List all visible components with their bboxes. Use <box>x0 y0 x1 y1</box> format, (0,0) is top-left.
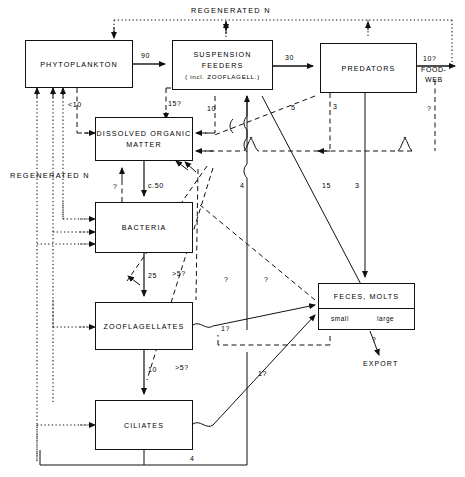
box-predators[interactable]: PREDATORS <box>320 43 417 93</box>
flow-label-1q-ciliates-feces: 1? <box>258 370 267 377</box>
flow-label-export-q: ? <box>372 336 377 343</box>
flow-label-3-predators-feces: 3 <box>355 182 360 189</box>
bacteria-label: BACTERIA <box>122 222 167 233</box>
flow-label-90: 90 <box>141 52 150 59</box>
foodweb-label-line1: FOOD- <box>421 66 447 73</box>
flow-label-5-diagonal: 5 <box>291 104 296 111</box>
food-web-nitrogen-flow-diagram: PHYTOPLANKTON SUSPENSION FEEDERS ( incl.… <box>0 0 465 477</box>
feces-molts-divider <box>319 308 414 309</box>
flow-label-30: 30 <box>285 54 294 61</box>
flow-label-25: 25 <box>148 272 157 279</box>
box-zooflagellates[interactable]: ZOOFLAGELLATES <box>95 302 193 350</box>
flow-label-bacteria-dom-q: ? <box>113 183 118 190</box>
box-phytoplankton[interactable]: PHYTOPLANKTON <box>25 40 133 88</box>
flow-suspension-feces-15 <box>262 96 365 292</box>
flow-label-q-mid-left: ? <box>224 276 229 283</box>
suspension-feeders-label-line3: ( incl. ZOOFLAGELL.) <box>185 71 260 82</box>
suspension-feeders-label-line2: FEEDERS <box>202 60 244 71</box>
flow-label-3-predators-dashed: 3 <box>333 103 338 110</box>
flow-zoofl-feces <box>193 305 315 327</box>
feces-molts-label: FECES, MOLTS <box>334 291 399 302</box>
flow-label-q-mid-right: ? <box>264 276 269 283</box>
regenerated-n-top-title: REGENERATED N <box>191 6 271 15</box>
flow-label-10-zoofl-ciliates: 10 <box>148 366 157 373</box>
flow-label-10-suspension-dom: 10 <box>207 105 216 112</box>
flow-ciliates-feces <box>193 315 315 426</box>
flow-label-1q-zoofl-feces: 1? <box>221 325 230 332</box>
flow-label-4-bottom: 4 <box>190 455 195 462</box>
box-dissolved-organic-matter[interactable]: DISSOLVED ORGANIC MATTER <box>95 117 193 161</box>
box-ciliates[interactable]: CILIATES <box>95 400 193 450</box>
export-label: EXPORT <box>363 360 398 367</box>
flow-label-4-vertical: 4 <box>240 182 245 189</box>
feces-molts-large-label: large <box>377 315 394 322</box>
regenerated-n-left-risers <box>37 90 88 462</box>
suspension-feeders-label-line1: SUSPENSION <box>193 49 251 60</box>
flow-label-gt5q-zoofl: >5? <box>172 270 186 277</box>
flow-label-10q: 10? <box>423 55 436 62</box>
ciliates-label: CILIATES <box>124 420 164 431</box>
flow-label-15q: 15? <box>168 100 181 107</box>
flow-feces-export <box>370 331 379 355</box>
flow-label-c50: c.50 <box>148 182 164 189</box>
flow-label-lt10: <10 <box>68 101 82 108</box>
flow-label-gt5q-ciliates: >5? <box>175 364 189 371</box>
regenerated-n-left-title: REGENERATED N <box>10 171 90 180</box>
feces-molts-small-label: small <box>331 315 349 322</box>
phytoplankton-label: PHYTOPLANKTON <box>40 59 118 70</box>
zooflagellates-label: ZOOFLAGELLATES <box>104 321 185 332</box>
flow-label-15-suspension-feces: 15 <box>322 182 331 189</box>
flow-label-foodweb-return: ? <box>427 105 432 112</box>
foodweb-label-line2: WEB <box>425 76 443 83</box>
box-bacteria[interactable]: BACTERIA <box>95 202 193 253</box>
dom-label-line1: DISSOLVED ORGANIC <box>97 128 192 139</box>
box-suspension-feeders[interactable]: SUSPENSION FEEDERS ( incl. ZOOFLAGELL.) <box>172 40 273 90</box>
box-feces-molts[interactable]: FECES, MOLTS small large <box>318 283 415 330</box>
dom-label-line2: MATTER <box>126 139 162 150</box>
predators-label: PREDATORS <box>342 63 396 74</box>
